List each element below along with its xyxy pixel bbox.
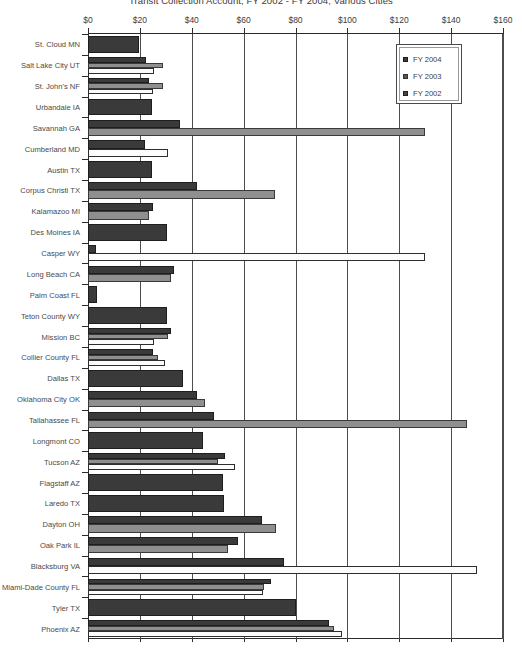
x-tick-label: $20 xyxy=(133,15,147,25)
bar-s2004 xyxy=(88,99,152,116)
bar-s2003 xyxy=(88,420,467,428)
bar-s2003 xyxy=(88,190,275,198)
plot-right-border xyxy=(502,34,503,639)
plot-area xyxy=(88,34,503,639)
x-tick-label: $160 xyxy=(494,15,513,25)
bar-s2003 xyxy=(88,274,171,282)
category-label: Palm Coast FL xyxy=(0,290,80,299)
chart-title: Transit Collection Account, FY 2002 - FY… xyxy=(0,0,522,6)
bar-s2004 xyxy=(88,307,167,324)
category-label: Mission BC xyxy=(0,332,80,341)
bar-s2002 xyxy=(88,360,165,366)
bar-s2002 xyxy=(88,566,477,574)
bar-s2002 xyxy=(88,339,154,345)
category-label: St. Cloud MN xyxy=(0,40,80,49)
gridline xyxy=(451,34,452,639)
bar-s2004 xyxy=(88,203,153,211)
x-tick-label: $140 xyxy=(442,15,461,25)
category-label: Des Moines IA xyxy=(0,228,80,237)
category-label: Oak Park IL xyxy=(0,541,80,550)
bar-s2004 xyxy=(88,537,238,545)
category-label: Blacksburg VA xyxy=(0,561,80,570)
category-label: Longmont CO xyxy=(0,436,80,445)
legend-swatch-icon xyxy=(403,57,408,62)
bar-s2004 xyxy=(88,161,152,178)
category-label: Tucson AZ xyxy=(0,457,80,466)
x-tick-label: $120 xyxy=(390,15,409,25)
bar-s2004 xyxy=(88,495,224,512)
category-label: Tyler TX xyxy=(0,603,80,612)
bar-s2002 xyxy=(88,89,153,95)
gridline xyxy=(244,34,245,639)
bar-s2002 xyxy=(88,253,425,261)
category-label: Dayton OH xyxy=(0,520,80,529)
category-label: Dallas TX xyxy=(0,374,80,383)
category-label: Long Beach CA xyxy=(0,269,80,278)
bar-s2004 xyxy=(88,558,284,566)
bar-s2002 xyxy=(88,149,168,157)
bar-s2004 xyxy=(88,245,96,253)
bar-chart: Transit Collection Account, FY 2002 - FY… xyxy=(0,0,522,655)
bar-s2002 xyxy=(88,631,342,637)
bar-s2002 xyxy=(88,464,235,470)
gridline xyxy=(399,34,400,639)
category-label: Flagstaff AZ xyxy=(0,478,80,487)
bar-s2004 xyxy=(88,224,167,241)
category-label: Cumberland MD xyxy=(0,144,80,153)
category-label: Kalamazoo MI xyxy=(0,207,80,216)
bar-s2003 xyxy=(88,128,425,136)
legend-swatch-icon xyxy=(403,91,408,96)
legend-entry: FY 2004 xyxy=(403,54,442,64)
bar-s2003 xyxy=(88,211,149,219)
category-label: Salt Lake City UT xyxy=(0,61,80,70)
category-label: Casper WY xyxy=(0,249,80,258)
category-label: Oklahoma City OK xyxy=(0,395,80,404)
bar-s2004 xyxy=(88,182,197,190)
bar-s2002 xyxy=(88,68,154,74)
legend: FY 2004FY 2003FY 2002 xyxy=(396,44,462,104)
legend-entry: FY 2002 xyxy=(403,88,442,98)
legend-swatch-icon xyxy=(403,74,408,79)
gridline xyxy=(347,34,348,639)
x-tick-label: $40 xyxy=(185,15,199,25)
category-label: Miami-Dade County FL xyxy=(0,582,80,591)
bar-s2004 xyxy=(88,140,145,148)
x-tick-label: $0 xyxy=(83,15,92,25)
category-label: Corpus Christi TX xyxy=(0,186,80,195)
x-tick-label: $100 xyxy=(338,15,357,25)
x-tick-label: $60 xyxy=(237,15,251,25)
gridline xyxy=(503,34,504,639)
category-label: Teton County WY xyxy=(0,311,80,320)
legend-label: FY 2003 xyxy=(413,72,442,81)
legend-label: FY 2002 xyxy=(413,89,442,98)
legend-label: FY 2004 xyxy=(413,55,442,64)
category-label: Phoenix AZ xyxy=(0,624,80,633)
category-label: Tallahassee FL xyxy=(0,415,80,424)
gridline xyxy=(296,34,297,639)
bar-s2003 xyxy=(88,399,205,407)
category-label: Laredo TX xyxy=(0,499,80,508)
bar-s2004 xyxy=(88,432,203,449)
bar-s2004 xyxy=(88,391,197,399)
bar-s2002 xyxy=(88,590,263,596)
legend-entry: FY 2003 xyxy=(403,71,442,81)
category-label: Savannah GA xyxy=(0,123,80,132)
bar-s2004 xyxy=(88,36,139,53)
bar-s2004 xyxy=(88,370,183,387)
x-tick-label: $80 xyxy=(288,15,302,25)
bar-s2004 xyxy=(88,516,262,524)
category-label: Collier County FL xyxy=(0,353,80,362)
bar-s2004 xyxy=(88,120,180,128)
bar-s2003 xyxy=(88,524,276,532)
category-label: Urbandale IA xyxy=(0,103,80,112)
bar-s2004 xyxy=(88,266,174,274)
bar-s2004 xyxy=(88,286,97,303)
category-label: St. John's NF xyxy=(0,82,80,91)
bar-s2004 xyxy=(88,599,296,616)
bar-s2004 xyxy=(88,412,214,420)
bar-s2004 xyxy=(88,474,223,491)
bar-s2003 xyxy=(88,545,228,553)
category-label: Austin TX xyxy=(0,165,80,174)
